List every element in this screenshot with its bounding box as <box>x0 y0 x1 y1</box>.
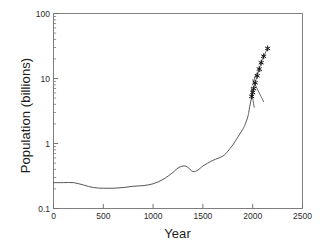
data-point-marker <box>259 60 263 65</box>
data-point-marker <box>265 46 269 51</box>
population-chart-figure: 0.111010005001000150020002500 Population… <box>0 0 327 250</box>
x-tick-label: 2500 <box>293 211 312 221</box>
data-point-marker <box>261 54 265 59</box>
x-tick-label: 1500 <box>193 211 212 221</box>
data-series-layer <box>54 48 268 188</box>
x-tick-label: 1000 <box>144 211 163 221</box>
y-tick-label: 0.1 <box>38 204 50 214</box>
x-axis-title: Year <box>53 226 302 241</box>
major-tick-layer <box>54 14 303 209</box>
y-tick-label: 10 <box>41 74 51 84</box>
tick-label-layer: 0.111010005001000150020002500 <box>36 9 312 222</box>
data-point-marker <box>252 86 256 91</box>
y-tick-label: 100 <box>36 9 50 19</box>
data-point-marker <box>251 90 255 95</box>
y-tick-label: 1 <box>45 139 50 149</box>
series-line-historical-population <box>54 92 253 188</box>
y-axis-title: Population (billions) <box>18 31 33 201</box>
x-tick-label: 500 <box>96 211 110 221</box>
data-point-marker <box>250 94 254 99</box>
axis-layer <box>54 14 303 209</box>
x-tick-label: 2000 <box>243 211 262 221</box>
chart-canvas: 0.111010005001000150020002500 <box>0 0 327 250</box>
x-tick-label: 0 <box>51 211 56 221</box>
data-marker-layer <box>250 46 270 99</box>
